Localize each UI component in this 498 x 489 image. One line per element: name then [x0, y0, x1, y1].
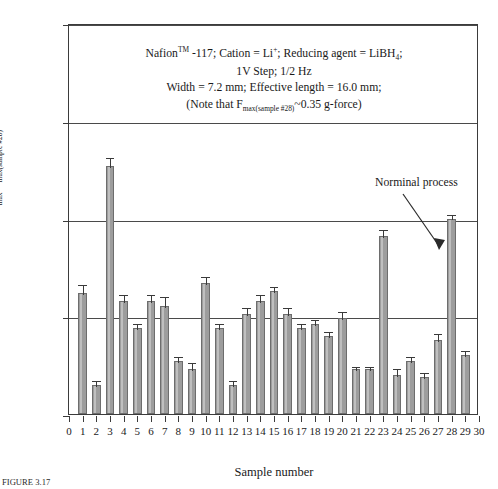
bar-highlight [285, 315, 287, 413]
note-line-1: NafionTM -117; Cation = Li+; Reducing ag… [109, 45, 439, 64]
error-bar-cap [160, 297, 168, 298]
error-bar-cap [461, 351, 469, 352]
bar [338, 318, 346, 414]
bar [352, 369, 360, 414]
error-bar [383, 230, 384, 238]
gridline [69, 123, 477, 124]
bar [379, 236, 387, 414]
bar-highlight [80, 294, 82, 413]
x-tick-mark [260, 416, 261, 422]
bar-highlight [408, 362, 410, 413]
error-bar-cap [434, 334, 442, 335]
bar-highlight [272, 292, 274, 413]
y-tick-mark [63, 25, 69, 26]
x-tick-mark [438, 416, 439, 422]
y-axis-label-sub-sample: max(sample #28) [0, 130, 4, 182]
error-bar [110, 158, 111, 168]
bar [311, 324, 319, 414]
x-tick-mark [124, 416, 125, 422]
x-tick-mark [110, 416, 111, 422]
bar-highlight [94, 386, 96, 413]
bar-highlight [340, 319, 342, 413]
error-bar-cap [393, 369, 401, 370]
error-bar-cap [174, 357, 182, 358]
x-tick-mark [315, 416, 316, 422]
error-bar-cap [119, 295, 127, 296]
error-bar-cap [379, 230, 387, 231]
bar [92, 385, 100, 414]
error-bar [192, 363, 193, 371]
x-tick-mark [69, 416, 70, 422]
x-tick-mark [465, 416, 466, 422]
note-line-4: (Note that Fmax(sample #28)~0.35 g-force… [109, 97, 439, 115]
annotation-arrow-icon [399, 190, 459, 258]
bar-highlight [395, 376, 397, 413]
bar [242, 314, 250, 414]
error-bar [260, 295, 261, 303]
bar-highlight [381, 237, 383, 413]
bar-highlight [299, 329, 301, 413]
figure-caption: FIGURE 3.17 [2, 477, 496, 489]
bar-highlight [258, 302, 260, 413]
error-bar-cap [311, 320, 319, 321]
error-bar-cap [256, 295, 264, 296]
x-tick-mark [192, 416, 193, 422]
bar [160, 306, 168, 414]
error-bar-cap [215, 324, 223, 325]
error-bar-cap [283, 308, 291, 309]
error-bar [124, 295, 125, 303]
x-tick-mark [342, 416, 343, 422]
bar [420, 377, 428, 414]
plot-area: 0.00.51.01.52.0 012345678910111213141516… [68, 24, 478, 415]
bar [434, 340, 442, 414]
bar [297, 328, 305, 414]
error-bar-cap [201, 277, 209, 278]
x-tick-mark [165, 416, 166, 422]
bar-highlight [190, 370, 192, 413]
bar [106, 166, 114, 414]
error-bar-cap [352, 367, 360, 368]
error-bar [83, 285, 84, 295]
x-tick-mark [247, 416, 248, 422]
x-tick-mark [96, 416, 97, 422]
bar-highlight [121, 302, 123, 413]
error-bar [397, 369, 398, 377]
bar [119, 301, 127, 414]
bar [256, 301, 264, 414]
gridline [69, 25, 477, 26]
x-tick-mark [137, 416, 138, 422]
error-bar-cap [242, 308, 250, 309]
bar-highlight [231, 386, 233, 413]
x-tick-mark [301, 416, 302, 422]
error-bar [206, 277, 207, 285]
error-bar [247, 308, 248, 316]
x-tick-mark [370, 416, 371, 422]
error-bar [342, 312, 343, 320]
bar-highlight [463, 356, 465, 413]
error-bar-cap [270, 287, 278, 288]
bar-highlight [108, 167, 110, 413]
y-tick-mark [63, 221, 69, 222]
x-tick-mark [479, 416, 480, 422]
x-tick-mark [288, 416, 289, 422]
bar-highlight [217, 329, 219, 413]
x-tick-mark [356, 416, 357, 422]
bar-highlight [244, 315, 246, 413]
bar [133, 328, 141, 414]
y-tick-mark [63, 318, 69, 319]
x-tick-mark [329, 416, 330, 422]
x-tick-mark [219, 416, 220, 422]
bar-highlight [436, 341, 438, 413]
x-tick-mark [383, 416, 384, 422]
error-bar [151, 295, 152, 303]
x-tick-mark [452, 416, 453, 422]
bar [270, 291, 278, 414]
x-tick-label: 30 [468, 425, 490, 437]
bar [174, 361, 182, 414]
error-bar-cap [92, 381, 100, 382]
note-line-3: Width = 7.2 mm; Effective length = 16.0 … [109, 80, 439, 97]
bar [215, 328, 223, 414]
bar [324, 336, 332, 414]
error-bar-cap [324, 332, 332, 333]
bar-highlight [203, 284, 205, 413]
